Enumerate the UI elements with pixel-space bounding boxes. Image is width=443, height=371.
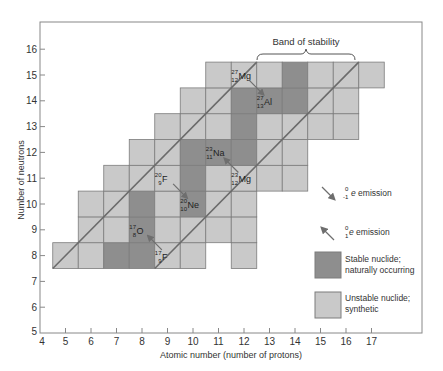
unstable-nuclide-cell bbox=[308, 114, 334, 140]
y-tick-label: 11 bbox=[27, 173, 38, 184]
unstable-nuclide-cell bbox=[78, 243, 104, 269]
svg-text:-1: -1 bbox=[343, 194, 349, 200]
y-tick-label: 5 bbox=[31, 326, 37, 337]
unstable-nuclide-cell bbox=[206, 62, 232, 88]
y-tick-label: 9 bbox=[31, 224, 37, 235]
x-tick-label: 7 bbox=[114, 336, 120, 347]
unstable-nuclide-cell bbox=[282, 165, 308, 191]
x-tick-label: 10 bbox=[187, 336, 199, 347]
y-tick-label: 13 bbox=[26, 121, 38, 132]
svg-text:Mg: Mg bbox=[239, 174, 252, 184]
stable-nuclide-cell bbox=[231, 114, 257, 140]
stable-swatch bbox=[315, 252, 341, 278]
y-tick-label: 7 bbox=[31, 276, 37, 287]
unstable-nuclide-cell bbox=[257, 114, 283, 140]
stable-nuclide-cell bbox=[231, 88, 257, 114]
unstable-nuclide-cell bbox=[104, 217, 130, 243]
svg-text:synthetic: synthetic bbox=[345, 304, 379, 314]
y-tick-label: 14 bbox=[26, 95, 38, 106]
x-tick-label: 15 bbox=[315, 336, 327, 347]
band-of-stability-chart: 178O179F209F2010Ne2311Na2312Mg2712Mg2713… bbox=[0, 0, 443, 371]
svg-text:O: O bbox=[137, 226, 144, 236]
x-tick-label: 6 bbox=[88, 336, 94, 347]
y-tick-label: 6 bbox=[31, 302, 37, 313]
unstable-nuclide-cell bbox=[129, 140, 155, 166]
x-tick-label: 8 bbox=[139, 336, 145, 347]
x-tick-label: 13 bbox=[264, 336, 276, 347]
band-label: Band of stability bbox=[272, 36, 339, 47]
x-tick-label: 14 bbox=[289, 336, 301, 347]
y-tick-label: 8 bbox=[31, 250, 37, 261]
unstable-swatch bbox=[315, 292, 341, 318]
x-tick-label: 4 bbox=[39, 336, 45, 347]
unstable-nuclide-cell bbox=[257, 62, 283, 88]
stable-nuclide-cell bbox=[180, 140, 206, 166]
y-axis-title: Number of neutrons bbox=[16, 140, 26, 220]
svg-text:e emission: e emission bbox=[349, 227, 390, 237]
unstable-nuclide-cell bbox=[333, 88, 359, 114]
unstable-nuclide-cell bbox=[231, 217, 257, 243]
unstable-nuclide-cell bbox=[282, 140, 308, 166]
unstable-nuclide-cell bbox=[78, 191, 104, 217]
svg-text:naturally occurring: naturally occurring bbox=[345, 265, 415, 275]
unstable-nuclide-cell bbox=[257, 165, 283, 191]
x-tick-label: 9 bbox=[165, 336, 171, 347]
unstable-nuclide-cell bbox=[359, 62, 385, 88]
svg-text:F: F bbox=[162, 174, 168, 184]
unstable-nuclide-cell bbox=[155, 191, 181, 217]
x-tick-label: 17 bbox=[366, 336, 378, 347]
svg-text:e emission: e emission bbox=[351, 188, 392, 198]
y-tick-label: 12 bbox=[26, 147, 38, 158]
unstable-nuclide-cell bbox=[155, 217, 181, 243]
stable-nuclide-cell bbox=[282, 88, 308, 114]
y-tick-label: 16 bbox=[26, 44, 38, 55]
svg-text:Stable nuclide;: Stable nuclide; bbox=[345, 254, 401, 264]
svg-text:Unstable nuclide;: Unstable nuclide; bbox=[345, 293, 410, 303]
svg-text:Al: Al bbox=[264, 97, 272, 107]
y-tick-label: 10 bbox=[26, 199, 38, 210]
unstable-nuclide-cell bbox=[206, 217, 232, 243]
x-tick-label: 11 bbox=[213, 336, 224, 347]
stable-nuclide-cell bbox=[129, 191, 155, 217]
svg-text:Ne: Ne bbox=[188, 200, 200, 210]
unstable-nuclide-cell bbox=[333, 114, 359, 140]
stable-nuclide-cell bbox=[104, 243, 130, 269]
x-tick-label: 12 bbox=[238, 336, 250, 347]
unstable-nuclide-cell bbox=[155, 114, 181, 140]
unstable-nuclide-cell bbox=[231, 243, 257, 269]
unstable-nuclide-cell bbox=[180, 88, 206, 114]
unstable-nuclide-cell bbox=[180, 243, 206, 269]
stable-nuclide-cell bbox=[129, 243, 155, 269]
svg-text:Mg: Mg bbox=[239, 71, 252, 81]
x-tick-label: 16 bbox=[340, 336, 352, 347]
y-tick-label: 15 bbox=[26, 70, 38, 81]
unstable-nuclide-cell bbox=[206, 114, 232, 140]
svg-text:F: F bbox=[162, 252, 168, 262]
svg-text:Na: Na bbox=[213, 148, 225, 158]
legend-stable: Stable nuclide; naturally occurring bbox=[315, 252, 415, 278]
unstable-nuclide-cell bbox=[206, 165, 232, 191]
x-tick-label: 5 bbox=[63, 336, 69, 347]
stable-nuclide-cell bbox=[282, 62, 308, 88]
unstable-nuclide-cell bbox=[231, 191, 257, 217]
unstable-nuclide-cell bbox=[104, 165, 130, 191]
stable-nuclide-cell bbox=[180, 165, 206, 191]
unstable-nuclide-cell bbox=[308, 62, 334, 88]
x-axis-title: Atomic number (number of protons) bbox=[160, 350, 302, 360]
stable-nuclide-cell bbox=[231, 140, 257, 166]
